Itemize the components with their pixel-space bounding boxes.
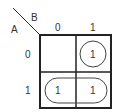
cell-1-1: 1 bbox=[90, 85, 96, 96]
row-variable-label: A bbox=[11, 24, 18, 35]
cell-0-1: 1 bbox=[90, 49, 96, 60]
cell-1-0: 1 bbox=[55, 85, 61, 96]
col-header-0: 0 bbox=[55, 22, 61, 33]
col-header-1: 1 bbox=[90, 22, 96, 33]
col-variable-label: B bbox=[31, 12, 38, 23]
row-header-0: 0 bbox=[25, 49, 31, 60]
karnaugh-map: B A 0 1 0 1 1 1 1 bbox=[0, 0, 118, 112]
row-header-1: 1 bbox=[25, 85, 31, 96]
